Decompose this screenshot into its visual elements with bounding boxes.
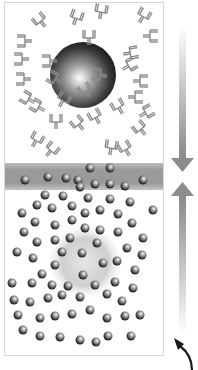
- arrow-up-icon: [171, 182, 194, 335]
- diagram-canvas: [0, 0, 198, 370]
- faded-large-sphere: [49, 226, 121, 298]
- arrow-down-icon: [171, 25, 194, 172]
- curved-arrow-icon: [174, 338, 192, 370]
